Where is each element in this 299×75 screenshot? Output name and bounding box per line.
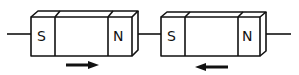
magnet-2-north-label: N [242, 28, 252, 44]
arrow-left-icon [195, 63, 228, 71]
magnet-1-south-divider-top [55, 11, 60, 17]
arrow-right-icon [66, 61, 99, 69]
magnet-1-side [132, 11, 138, 56]
magnet-1-top [31, 11, 138, 17]
magnet-1-north-label: N [113, 28, 123, 44]
bar-magnet-1 [7, 11, 147, 56]
magnets-diagram: S N S N [0, 0, 299, 75]
magnet-1-north-divider-top [108, 11, 113, 17]
magnet-2-side [260, 12, 266, 56]
magnet-2-south-label: S [167, 28, 176, 44]
magnet-1-south-label: S [37, 28, 46, 44]
